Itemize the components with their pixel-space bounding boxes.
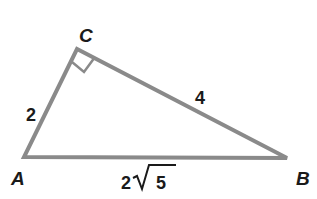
triangle-diagram: C A B 2 4 2 5: [0, 0, 317, 199]
side-label-ac: 2: [26, 105, 36, 125]
vertex-label-b: B: [296, 168, 310, 189]
side-label-ab: 2 5: [121, 165, 176, 193]
svg-text:5: 5: [156, 173, 166, 193]
vertex-label-c: C: [79, 25, 93, 46]
side-label-cb: 4: [195, 88, 205, 108]
vertex-label-a: A: [10, 168, 25, 189]
triangle-abc: [24, 49, 287, 158]
radical-sign: [133, 165, 176, 189]
svg-text:2: 2: [121, 173, 131, 193]
right-angle-marker: [72, 57, 95, 72]
